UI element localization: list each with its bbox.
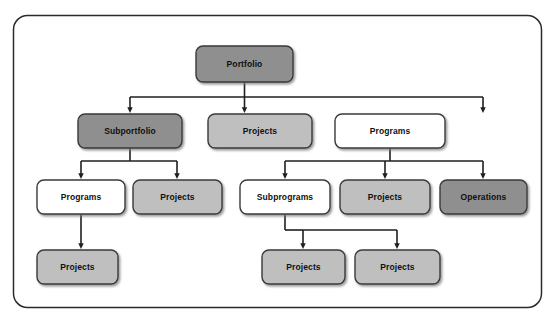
node-projects-l4b-box[interactable] [262,250,345,284]
node-subportfolio[interactable]: Subportfolio [78,114,182,148]
portfolio-hierarchy-diagram: Portfolio Subportfolio Projects Programs… [0,0,554,322]
node-projects-l2-box[interactable] [208,114,312,148]
node-projects-l3a[interactable]: Projects [133,180,222,214]
node-operations-box[interactable] [440,180,527,214]
node-subprograms[interactable]: Subprograms [240,180,330,214]
node-programs-l3[interactable]: Programs [37,180,125,214]
node-projects-l3a-box[interactable] [133,180,222,214]
node-projects-l4a-box[interactable] [37,250,118,284]
node-projects-l3b[interactable]: Projects [340,180,430,214]
node-programs-l2-box[interactable] [335,114,445,148]
node-portfolio-box[interactable] [196,46,293,82]
diagram-canvas: Portfolio Subportfolio Projects Programs… [0,0,554,322]
node-projects-l4c[interactable]: Projects [355,250,440,284]
node-portfolio[interactable]: Portfolio [196,46,293,82]
node-programs-l2[interactable]: Programs [335,114,445,148]
node-projects-l4a[interactable]: Projects [37,250,118,284]
node-projects-l4c-box[interactable] [355,250,440,284]
node-subprograms-box[interactable] [240,180,330,214]
node-operations[interactable]: Operations [440,180,527,214]
node-programs-l3-box[interactable] [37,180,125,214]
node-projects-l2[interactable]: Projects [208,114,312,148]
node-projects-l4b[interactable]: Projects [262,250,345,284]
node-subportfolio-box[interactable] [78,114,182,148]
node-projects-l3b-box[interactable] [340,180,430,214]
